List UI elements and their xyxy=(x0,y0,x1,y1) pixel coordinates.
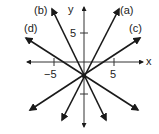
y-tick-label-5: 5 xyxy=(70,28,76,39)
label-line-d: (d) xyxy=(24,23,37,34)
y-axis-label: y xyxy=(68,4,74,15)
x-tick-label-5: 5 xyxy=(110,69,116,80)
common-point xyxy=(82,74,86,78)
label-line-b: (b) xyxy=(34,5,47,16)
coordinate-plane xyxy=(0,0,159,134)
x-tick-label-neg5: −5 xyxy=(44,69,57,80)
line-b xyxy=(52,9,106,120)
line-a xyxy=(62,9,119,120)
label-line-a: (a) xyxy=(120,5,133,16)
line-d xyxy=(26,38,138,110)
label-line-c: (c) xyxy=(129,23,142,34)
x-axis-label: x xyxy=(146,56,152,67)
